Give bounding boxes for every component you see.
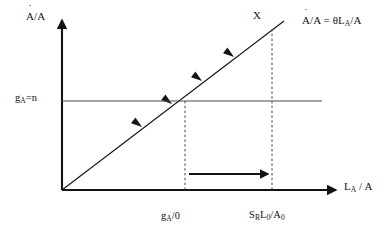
x-axis-label: LA / A bbox=[344, 181, 373, 194]
tick-right-slash-a: /A bbox=[270, 209, 281, 220]
equation-a-dot-glyph: A bbox=[302, 15, 310, 27]
x-tick-label-srl0a0: SRL0/A0 bbox=[249, 209, 285, 222]
diagram-svg bbox=[0, 0, 389, 239]
a-dot-glyph: A bbox=[26, 11, 34, 23]
threshold-label-suffix: =n bbox=[26, 92, 37, 103]
equation-equals: = bbox=[321, 14, 333, 26]
x-axis-label-suffix: / A bbox=[356, 180, 372, 192]
equation-label: A/A = θLA/A bbox=[302, 15, 361, 28]
tick-right-sub-a-zero: 0 bbox=[281, 213, 285, 222]
figure-canvas: A/A A/A = θLA/A X gA=n LA / A gA/0 SRL0/… bbox=[0, 0, 389, 239]
y-axis-label-suffix: /A bbox=[34, 10, 45, 22]
equation-rhs-suffix: /A bbox=[350, 14, 361, 26]
direction-arrowheads bbox=[131, 47, 236, 129]
x-tick-label-ga-theta: gA/0 bbox=[161, 210, 180, 223]
series-line-theta bbox=[62, 21, 284, 190]
threshold-label: gA=n bbox=[15, 92, 37, 105]
equation-rhs-theta: θL bbox=[333, 14, 345, 26]
tick-left-suffix: /0 bbox=[172, 210, 180, 221]
point-marker-label: X bbox=[253, 10, 261, 22]
y-axis-label: A/A bbox=[26, 11, 45, 23]
equation-lhs-suffix: /A bbox=[310, 14, 321, 26]
x-axis-label-base: L bbox=[344, 180, 351, 192]
